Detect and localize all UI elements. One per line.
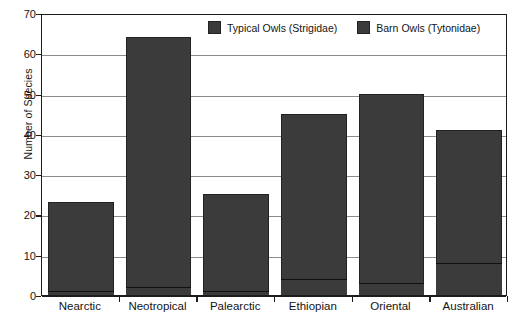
bar-barn-owls-nearctic — [48, 291, 114, 295]
x-tick-label-neotropical: Neotropical — [119, 300, 197, 312]
owl-species-bar-chart: Number of Species 010203040506070 Nearct… — [0, 0, 515, 320]
y-tick-label-40: 40 — [2, 129, 36, 141]
y-tick-mark-20 — [36, 215, 41, 216]
y-tick-label-60: 60 — [2, 48, 36, 60]
bar-barn-owls-ethiopian — [281, 279, 347, 295]
plot-area — [41, 14, 507, 296]
gridline-10 — [42, 257, 506, 258]
y-tick-label-50: 50 — [2, 89, 36, 101]
x-tick-label-nearctic: Nearctic — [41, 300, 119, 312]
y-tick-mark-40 — [36, 135, 41, 136]
x-tick-label-palearctic: Palearctic — [196, 300, 274, 312]
bar-barn-owls-palearctic — [203, 291, 269, 295]
bars-layer — [42, 15, 506, 295]
y-tick-mark-0 — [36, 296, 41, 297]
x-tick-label-ethiopian: Ethiopian — [274, 300, 352, 312]
legend-label-0: Typical Owls (Strigidae) — [227, 22, 337, 34]
gridline-20 — [42, 216, 506, 217]
legend-swatch-icon-0 — [208, 21, 221, 34]
bar-typical-owls-ethiopian — [281, 114, 347, 295]
bar-barn-owls-neotropical — [126, 287, 192, 295]
bar-typical-owls-australian — [436, 130, 502, 295]
legend-item-barn-owls: Barn Owls (Tytonidae) — [357, 21, 480, 34]
y-tick-label-70: 70 — [2, 8, 36, 20]
y-tick-label-0: 0 — [2, 290, 36, 302]
chart-legend: Typical Owls (Strigidae)Barn Owls (Tyton… — [205, 20, 483, 35]
bar-barn-owls-oriental — [359, 283, 425, 295]
y-tick-mark-60 — [36, 54, 41, 55]
gridline-50 — [42, 96, 506, 97]
bar-barn-owls-australian — [436, 263, 502, 295]
legend-label-1: Barn Owls (Tytonidae) — [376, 22, 480, 34]
y-tick-mark-50 — [36, 95, 41, 96]
gridline-30 — [42, 176, 506, 177]
y-tick-mark-30 — [36, 175, 41, 176]
legend-item-typical-owls: Typical Owls (Strigidae) — [208, 21, 337, 34]
legend-swatch-icon-1 — [357, 21, 370, 34]
y-tick-label-10: 10 — [2, 250, 36, 262]
bar-typical-owls-oriental — [359, 94, 425, 295]
y-tick-label-20: 20 — [2, 209, 36, 221]
x-tick-mark-5 — [507, 296, 508, 302]
gridline-40 — [42, 136, 506, 137]
gridline-60 — [42, 55, 506, 56]
y-tick-mark-70 — [36, 14, 41, 15]
y-tick-label-30: 30 — [2, 169, 36, 181]
bar-typical-owls-palearctic — [203, 194, 269, 295]
x-tick-label-australian: Australian — [429, 300, 507, 312]
y-tick-mark-10 — [36, 256, 41, 257]
x-tick-label-oriental: Oriental — [352, 300, 430, 312]
